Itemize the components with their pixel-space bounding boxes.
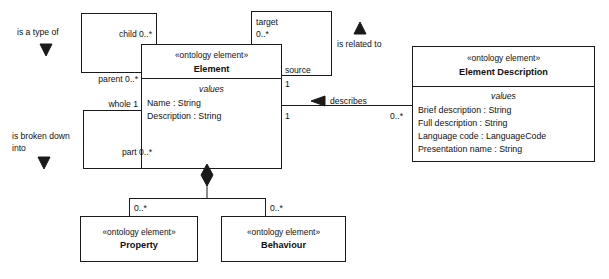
- class-element-description: «ontology element» Element Description v…: [413, 47, 595, 162]
- behaviour-box-outline: [222, 217, 346, 262]
- role-label-target: target: [256, 17, 279, 27]
- class-property: «ontology element» Property: [81, 217, 198, 262]
- class-element: «ontology element» Element values Name :…: [142, 45, 282, 169]
- element-description-attribute-brief: Brief description : String: [418, 105, 511, 115]
- role-mult-source-bottom: 1: [285, 111, 290, 121]
- element-attribute-name: Name : String: [147, 98, 201, 108]
- element-description-stereotype: «ontology element»: [467, 53, 540, 63]
- role-label-whole: whole 1: [107, 99, 138, 109]
- note-is-related-to: is related to: [337, 39, 382, 49]
- element-class-name: Element: [194, 64, 230, 74]
- role-label-part: part 0..*: [122, 147, 153, 157]
- property-class-name: Property: [120, 240, 159, 250]
- element-description-class-name: Element Description: [459, 67, 548, 77]
- diagram-canvas: «ontology element» Element values Name :…: [0, 0, 609, 279]
- triangle-up-icon-related-to: [354, 22, 366, 34]
- element-description-attribute-language: Language code : LanguageCode: [418, 131, 546, 141]
- element-stereotype: «ontology element»: [175, 50, 248, 60]
- role-label-source: source: [285, 65, 311, 75]
- role-mult-target: 0..*: [256, 29, 270, 39]
- element-values-label: values: [199, 84, 225, 94]
- class-behaviour: «ontology element» Behaviour: [222, 217, 346, 262]
- property-stereotype: «ontology element»: [102, 227, 175, 237]
- note-is-broken-down-line2: into: [12, 143, 26, 153]
- note-describes: describes: [330, 96, 367, 106]
- triangle-left-icon-describes: [311, 96, 325, 106]
- role-label-child: child 0..*: [119, 29, 153, 39]
- triangle-down-icon-broken-down: [38, 157, 50, 169]
- triangle-down-icon-type-of: [40, 44, 52, 56]
- note-is-broken-down-line1: is broken down: [12, 131, 70, 141]
- element-description-values-label: values: [491, 91, 517, 101]
- role-mult-source-top: 1: [285, 79, 290, 89]
- role-mult-property: 0..*: [134, 203, 148, 213]
- role-mult-behaviour: 0..*: [270, 203, 284, 213]
- role-label-parent: parent 0..*: [98, 74, 138, 84]
- element-description-attribute-full: Full description : String: [418, 118, 508, 128]
- role-mult-describes: 0..*: [390, 111, 404, 121]
- note-is-a-type-of: is a type of: [17, 27, 59, 37]
- behaviour-stereotype: «ontology element»: [247, 227, 320, 237]
- uml-class-diagram: «ontology element» Element values Name :…: [0, 0, 609, 279]
- element-attribute-description: Description : String: [147, 111, 221, 121]
- property-box-outline: [81, 217, 198, 262]
- behaviour-class-name: Behaviour: [261, 240, 306, 250]
- element-description-attribute-presentation: Presentation name : String: [418, 144, 522, 154]
